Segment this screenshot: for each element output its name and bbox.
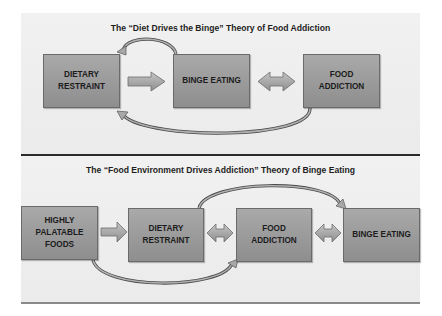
box-food-addiction: FOOD ADDICTION — [236, 208, 312, 262]
box-dietary-restraint: DIETARY RESTRAINT — [43, 54, 120, 108]
section-divider — [21, 154, 420, 156]
top-diagram-title: The “Diet Drives the Binge” Theory of Fo… — [21, 23, 420, 33]
bottom-diagram-title: The “Food Environment Drives Addiction” … — [21, 165, 420, 175]
box-binge-eating: BINGE EATING — [173, 54, 250, 108]
box-food-addiction: FOOD ADDICTION — [303, 54, 380, 108]
box-dietary-restraint: DIETARY RESTRAINT — [128, 208, 204, 262]
bottom-rule — [21, 302, 420, 304]
box-binge-eating: BINGE EATING — [343, 208, 420, 262]
box-highly-palatable-foods: HIGHLY PALATABLE FOODS — [21, 206, 98, 260]
